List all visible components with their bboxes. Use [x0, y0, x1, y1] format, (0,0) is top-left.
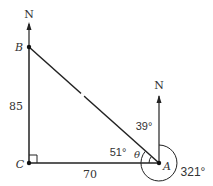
- angle-label-51: 51°: [110, 146, 127, 158]
- north-label-b: N: [24, 8, 34, 21]
- angle-label-theta: θ: [134, 149, 140, 160]
- point-c: [27, 161, 31, 165]
- bearing-diagram: N N B C A 85 70 39° 51° θ 321°: [0, 0, 213, 186]
- side-ba: [29, 47, 159, 163]
- point-b: [27, 45, 31, 49]
- point-a: [157, 161, 161, 165]
- side-label-ca: 70: [83, 168, 97, 181]
- north-label-a: N: [154, 79, 164, 92]
- arrowhead-icon: [157, 95, 162, 103]
- north-arrow-a: [157, 95, 162, 163]
- side-label-bc: 85: [9, 100, 23, 113]
- angle-label-39: 39°: [136, 120, 153, 132]
- label-a: A: [162, 160, 171, 173]
- hypotenuse-tick: [81, 94, 84, 97]
- arrowhead-icon: [27, 22, 32, 30]
- label-c: C: [16, 158, 25, 171]
- label-b: B: [14, 41, 23, 54]
- theta-arc: [149, 156, 152, 163]
- north-arrow-b: [27, 22, 32, 47]
- angle-label-321: 321°: [181, 165, 206, 179]
